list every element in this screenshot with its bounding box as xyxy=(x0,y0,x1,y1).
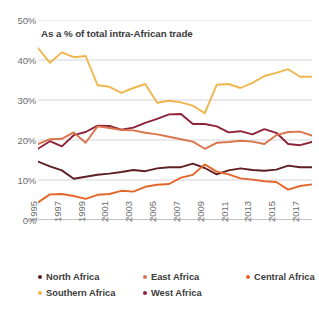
legend-item-west-africa[interactable]: West Africa xyxy=(143,288,202,298)
legend-item-east-africa[interactable]: East Africa xyxy=(143,272,199,282)
legend-item-label: Central Africa xyxy=(254,272,315,282)
series-line-southern-africa xyxy=(38,48,312,113)
x-axis-tick-label: 2005 xyxy=(147,201,158,222)
legend-swatch-icon xyxy=(246,275,250,279)
line-chart-svg xyxy=(38,20,312,220)
y-axis-tick-label: 40% xyxy=(2,55,36,66)
legend-item-label: Southern Africa xyxy=(46,288,115,298)
chart-card: 0%10%20%30%40%50% As a % of total intra-… xyxy=(0,0,319,311)
y-axis-tick-label: 20% xyxy=(2,135,36,146)
x-axis: 1995199719992001200320052007200920112013… xyxy=(38,222,312,268)
legend-swatch-icon xyxy=(143,275,147,279)
x-axis-tick-label: 2017 xyxy=(290,201,301,222)
series-line-north-africa xyxy=(38,162,312,179)
x-axis-tick-label: 2001 xyxy=(99,201,110,222)
y-axis-tick-label: 50% xyxy=(2,15,36,26)
x-axis-tick-label: 1999 xyxy=(75,201,86,222)
plot-area xyxy=(38,20,312,220)
chart-legend: North AfricaEast AfricaCentral AfricaSou… xyxy=(38,272,319,308)
legend-item-central-africa[interactable]: Central Africa xyxy=(246,272,315,282)
x-axis-tick-label: 2009 xyxy=(194,201,205,222)
x-axis-tick-label: 2003 xyxy=(123,201,134,222)
legend-swatch-icon xyxy=(38,291,42,295)
legend-swatch-icon xyxy=(143,291,147,295)
x-axis-tick-label: 2013 xyxy=(242,201,253,222)
x-axis-tick-label: 2011 xyxy=(218,202,229,222)
series-line-west-africa xyxy=(38,114,312,149)
y-axis-tick-label: 10% xyxy=(2,175,36,186)
x-axis-tick-label: 1995 xyxy=(28,201,39,222)
x-axis-tick-label: 2015 xyxy=(266,201,277,222)
legend-item-label: North Africa xyxy=(46,272,99,282)
x-axis-tick-label: 1997 xyxy=(51,201,62,222)
x-axis-tick-label: 2007 xyxy=(170,201,181,222)
legend-swatch-icon xyxy=(38,275,42,279)
y-axis-tick-label: 30% xyxy=(2,95,36,106)
series-line-east-africa xyxy=(38,126,312,148)
legend-item-north-africa[interactable]: North Africa xyxy=(38,272,99,282)
legend-item-southern-africa[interactable]: Southern Africa xyxy=(38,288,115,298)
legend-item-label: West Africa xyxy=(151,288,202,298)
y-axis: 0%10%20%30%40%50% xyxy=(0,0,36,311)
legend-item-label: East Africa xyxy=(151,272,199,282)
